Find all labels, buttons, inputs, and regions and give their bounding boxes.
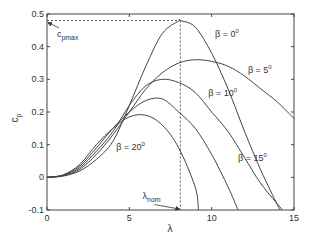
y-tick-label: -0.1	[28, 205, 44, 215]
y-tick-label: 0.4	[31, 42, 44, 52]
x-axis-label: λ	[168, 223, 173, 234]
annotation-label: λnom	[143, 191, 161, 203]
annotation-label: cpmax	[57, 29, 79, 42]
curve-label: β = 150	[238, 152, 267, 163]
y-tick-label: 0.5	[31, 9, 44, 19]
curve-line	[47, 79, 282, 210]
cp-lambda-chart: 051015-0.100.10.20.30.40.5 β = 00β = 50β…	[0, 0, 313, 242]
arrow-icon	[155, 205, 180, 209]
curve-label: β = 200	[116, 141, 145, 152]
y-tick-label: 0	[39, 172, 44, 182]
curve-line	[47, 19, 280, 210]
y-tick-label: 0.3	[31, 74, 44, 84]
svg-text:cp: cp	[9, 113, 23, 122]
curve-label: β = 00	[215, 28, 239, 39]
curves	[47, 19, 294, 210]
annotations: cpmaxλnom	[48, 23, 179, 209]
x-tick-label: 10	[207, 213, 217, 223]
curve-label: β = 100	[208, 87, 237, 98]
y-tick-label: 0.1	[31, 140, 44, 150]
plot-frame	[47, 14, 294, 210]
arrow-icon	[48, 23, 59, 28]
x-tick-label: 15	[289, 213, 299, 223]
curve-label: β = 50	[248, 64, 272, 75]
axis-ticks: 051015-0.100.10.20.30.40.5	[28, 9, 299, 223]
y-tick-label: 0.2	[31, 107, 44, 117]
x-tick-label: 0	[44, 213, 49, 223]
plot-border	[47, 14, 294, 210]
y-axis-label: cp	[9, 113, 23, 122]
reference-lines	[47, 21, 180, 210]
curve-line	[47, 115, 198, 210]
x-tick-label: 5	[127, 213, 132, 223]
